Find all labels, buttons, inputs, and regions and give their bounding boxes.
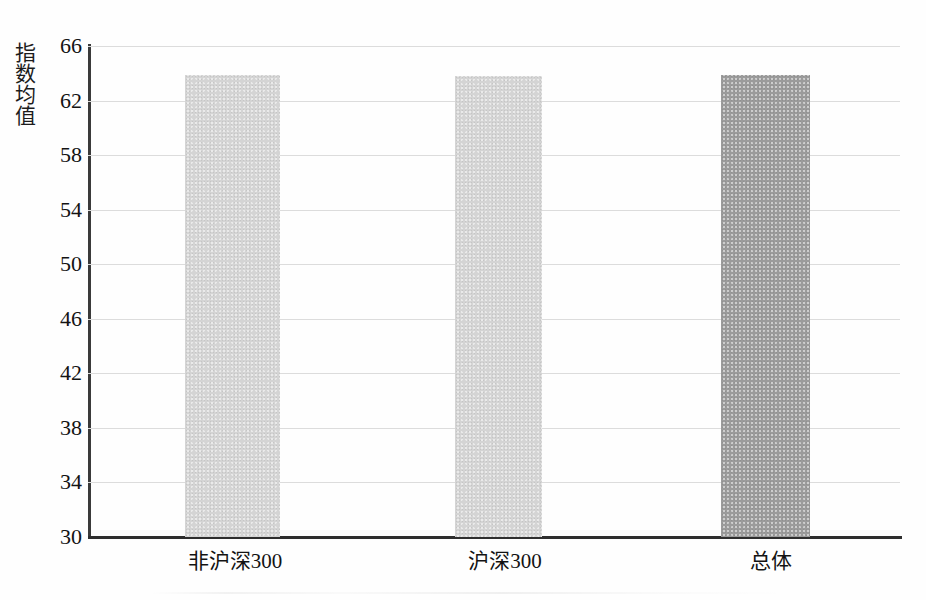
x-tick-hs300: 沪深300 <box>410 548 600 574</box>
y-tick-62: 62 <box>34 90 82 112</box>
y-axis-tick-labels: 66 62 58 54 50 46 42 38 34 30 <box>28 0 82 600</box>
gridline-66 <box>88 46 900 47</box>
bar-overall <box>721 75 810 537</box>
bar-chart-figure: 指数均值 66 62 58 54 50 46 42 38 34 30 非沪深30… <box>0 0 926 600</box>
plot-area <box>88 46 900 537</box>
y-tick-50: 50 <box>34 253 82 275</box>
y-tick-38: 38 <box>34 417 82 439</box>
y-tick-34: 34 <box>34 471 82 493</box>
y-tick-58: 58 <box>34 144 82 166</box>
x-tick-overall: 总体 <box>676 548 866 574</box>
y-tick-30: 30 <box>34 526 82 548</box>
bar-hs300 <box>455 76 542 537</box>
y-tick-66: 66 <box>34 35 82 57</box>
y-tick-42: 42 <box>34 362 82 384</box>
y-tick-54: 54 <box>34 199 82 221</box>
bar-non-hs300 <box>185 75 280 537</box>
y-tick-46: 46 <box>34 308 82 330</box>
page-artifact <box>150 592 790 594</box>
x-tick-non-hs300: 非沪深300 <box>140 548 330 574</box>
